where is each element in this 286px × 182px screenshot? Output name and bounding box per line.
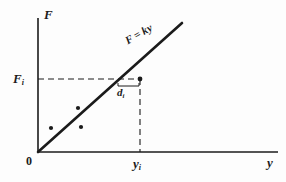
displacement-value-label: yi [133, 157, 141, 172]
data-point [79, 125, 83, 129]
displacement-value-subscript: i [139, 163, 141, 172]
figure-canvas: F Fi yi di y 0 F = ky [0, 0, 286, 182]
x-axis-title: y [267, 156, 273, 169]
y-axis-title: F [44, 8, 53, 21]
data-point [76, 106, 80, 110]
force-value-symbol: F [13, 71, 22, 86]
force-value-label: Fi [13, 72, 24, 87]
residual-label: di [117, 87, 124, 100]
force-value-subscript: i [22, 78, 24, 87]
data-point-highlighted [138, 77, 143, 82]
fitted-line [38, 23, 182, 152]
residual-subscript: i [123, 92, 125, 99]
data-point [49, 126, 53, 130]
origin-label: 0 [26, 155, 32, 167]
